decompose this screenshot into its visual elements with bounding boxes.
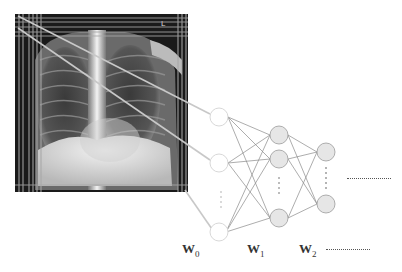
weight-continuation xyxy=(326,249,370,250)
hidden-node xyxy=(270,126,288,144)
input-layer xyxy=(210,108,228,241)
input-node xyxy=(210,154,228,172)
input-ellipsis xyxy=(220,191,222,208)
hidden-node xyxy=(270,150,288,168)
weight-label-w1: W1 xyxy=(247,241,265,259)
weight-label-w0: W0 xyxy=(182,241,200,259)
weight-label-w2: W2 xyxy=(299,241,317,259)
layer-continuation xyxy=(347,178,391,179)
input-node xyxy=(210,108,228,126)
hidden-node xyxy=(317,143,335,161)
hidden-node xyxy=(317,195,335,213)
hidden2-ellipsis xyxy=(325,167,327,189)
edges-w1 xyxy=(226,117,270,232)
hidden1-ellipsis xyxy=(278,177,280,194)
chest-xray-image: L xyxy=(15,14,188,192)
input-node xyxy=(210,223,228,241)
hidden-layer-2 xyxy=(317,143,335,213)
figure-canvas: L xyxy=(0,0,402,272)
hidden-node xyxy=(270,209,288,227)
figure: L xyxy=(0,0,402,272)
edges-w2 xyxy=(288,135,317,218)
hidden-layer-1 xyxy=(270,126,288,227)
